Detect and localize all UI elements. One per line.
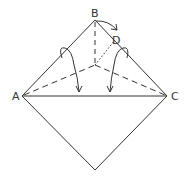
arrow-left-fold-icon bbox=[61, 48, 79, 92]
arrow-right-fold-icon bbox=[110, 48, 128, 92]
edge-ab bbox=[22, 20, 95, 96]
bottom-edges bbox=[22, 96, 167, 170]
fold-line-right bbox=[95, 65, 165, 95]
fold-line-left bbox=[24, 65, 95, 95]
label-d: D bbox=[112, 34, 120, 47]
origami-diagram: A B C D bbox=[0, 0, 187, 176]
arrow-b-icon bbox=[96, 21, 117, 30]
label-a: A bbox=[12, 90, 20, 103]
label-c: C bbox=[171, 90, 179, 103]
edge-bc bbox=[95, 20, 167, 96]
label-b: B bbox=[91, 7, 99, 20]
